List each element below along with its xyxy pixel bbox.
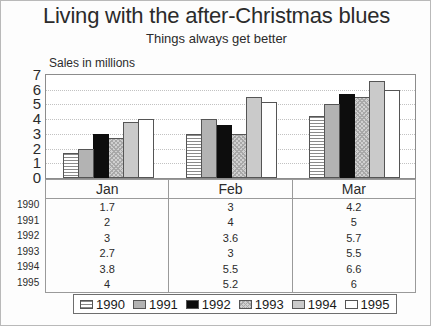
legend-label-1994: 1994 xyxy=(308,298,337,311)
table-row-header-1993: 1993 xyxy=(15,244,45,260)
table-cell-1994-jan: 3.8 xyxy=(46,261,169,277)
legend-label-1990: 1990 xyxy=(96,298,125,311)
bar-1993-mar xyxy=(354,97,370,178)
table-cell-1994-feb: 5.5 xyxy=(169,261,292,277)
bar-group-feb xyxy=(169,75,292,178)
bar-1992-mar xyxy=(339,94,355,178)
table-row-header-1991: 1991 xyxy=(15,213,45,229)
table-col-header-jan: Jan xyxy=(46,180,169,199)
table-cell-1991-feb: 4 xyxy=(169,215,292,231)
bar-1995-mar xyxy=(384,90,400,178)
legend-item-1994: 1994 xyxy=(292,298,337,311)
table-row-header-1995: 1995 xyxy=(15,275,45,291)
legend-label-1993: 1993 xyxy=(255,298,284,311)
bar-group-jan xyxy=(46,75,169,178)
legend-label-1992: 1992 xyxy=(202,298,231,311)
bar-1992-feb xyxy=(216,125,232,178)
bar-1991-jan xyxy=(78,149,94,178)
y-axis-label: Sales in millions xyxy=(49,56,135,70)
table-cell-1994-mar: 6.6 xyxy=(292,261,415,277)
table-row: 1.734.2 xyxy=(46,199,416,215)
y-axis-ticks: 76543210 xyxy=(19,67,41,186)
table-cell-1995-jan: 4 xyxy=(46,277,169,293)
bar-1990-feb xyxy=(186,134,202,178)
plot-frame xyxy=(45,74,416,179)
table-cell-1992-feb: 3.6 xyxy=(169,230,292,246)
bar-1991-feb xyxy=(201,119,217,178)
y-tick-3: 3 xyxy=(33,126,41,141)
legend-swatch-1991 xyxy=(133,300,146,309)
legend-swatch-1995 xyxy=(345,300,358,309)
bar-1990-mar xyxy=(309,116,325,178)
bar-group-mar xyxy=(292,75,415,178)
bar-1994-feb xyxy=(246,97,262,178)
bar-1995-feb xyxy=(261,102,277,179)
legend-swatch-1990 xyxy=(80,300,93,309)
legend-item-1990: 1990 xyxy=(80,298,125,311)
data-table-body: JanFebMar1.734.224533.65.72.735.53.85.56… xyxy=(46,180,416,293)
legend-label-1991: 1991 xyxy=(149,298,178,311)
y-tick-7: 7 xyxy=(33,67,41,82)
table-row-header-1994: 1994 xyxy=(15,259,45,275)
table-col-header-feb: Feb xyxy=(169,180,292,199)
bar-1991-mar xyxy=(324,104,340,178)
bar-1995-jan xyxy=(138,119,154,178)
table-cell-1993-jan: 2.7 xyxy=(46,246,169,262)
table-cell-1995-mar: 6 xyxy=(292,277,415,293)
bar-1990-jan xyxy=(63,153,79,178)
table-cell-1991-jan: 2 xyxy=(46,215,169,231)
bar-1992-jan xyxy=(93,134,109,178)
legend-item-1991: 1991 xyxy=(133,298,178,311)
y-tick-0: 0 xyxy=(33,170,41,185)
bar-groups xyxy=(46,75,415,178)
table-cell-1995-feb: 5.2 xyxy=(169,277,292,293)
bar-1993-jan xyxy=(108,138,124,178)
data-table: JanFebMar1.734.224533.65.72.735.53.85.56… xyxy=(45,179,416,293)
table-row: 33.65.7 xyxy=(46,230,416,246)
plot-area xyxy=(45,74,416,179)
legend-swatch-1993 xyxy=(239,300,252,309)
table-row-header-1992: 1992 xyxy=(15,228,45,244)
chart-legend: 199019911992199319941995 xyxy=(73,294,397,314)
table-header-row: JanFebMar xyxy=(46,180,416,199)
legend-label-1995: 1995 xyxy=(361,298,390,311)
chart-page: Living with the after-Christmas blues Th… xyxy=(0,0,431,326)
table-cell-1992-mar: 5.7 xyxy=(292,230,415,246)
chart-title: Living with the after-Christmas blues xyxy=(1,3,431,29)
chart-subtitle: Things always get better xyxy=(1,31,431,47)
table-cell-1993-mar: 5.5 xyxy=(292,246,415,262)
bar-1993-feb xyxy=(231,134,247,178)
legend-item-1993: 1993 xyxy=(239,298,284,311)
table-cell-1990-mar: 4.2 xyxy=(292,199,415,215)
table-col-header-mar: Mar xyxy=(292,180,415,199)
table-cell-1990-jan: 1.7 xyxy=(46,199,169,215)
table-cell-1990-feb: 3 xyxy=(169,199,292,215)
table-row-header-1990: 1990 xyxy=(15,197,45,213)
legend-swatch-1992 xyxy=(186,300,199,309)
table-cell-1993-feb: 3 xyxy=(169,246,292,262)
table-row: 245 xyxy=(46,215,416,231)
table-row: 3.85.56.6 xyxy=(46,261,416,277)
legend-swatch-1994 xyxy=(292,300,305,309)
table-row: 45.26 xyxy=(46,277,416,293)
table-cell-1992-jan: 3 xyxy=(46,230,169,246)
bar-1994-jan xyxy=(123,122,139,178)
y-tick-4: 4 xyxy=(33,111,41,126)
legend-item-1992: 1992 xyxy=(186,298,231,311)
table-year-column: 199019911992199319941995 xyxy=(15,197,45,290)
table-row: 2.735.5 xyxy=(46,246,416,262)
bar-1994-mar xyxy=(369,81,385,178)
legend-item-1995: 1995 xyxy=(345,298,390,311)
table-cell-1991-mar: 5 xyxy=(292,215,415,231)
